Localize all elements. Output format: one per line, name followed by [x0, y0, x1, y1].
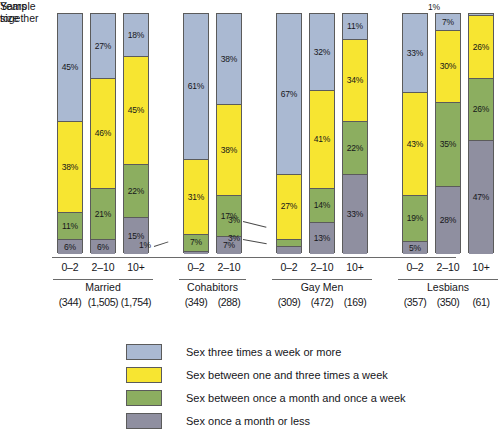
bar-segment: 19% [403, 196, 427, 242]
callout-gaymen-green-3pct: 3% [228, 215, 240, 225]
segment-value-label: 15% [128, 232, 144, 241]
bar-segment: 43% [403, 93, 427, 196]
group-name-lesbians: Lesbians [398, 279, 498, 293]
chart-baseline [52, 257, 456, 258]
segment-value-label: 27% [95, 42, 111, 51]
years-tick: 2–10 [212, 261, 246, 273]
callout-lesbians-1pct: 1% [428, 2, 440, 12]
segment-value-label: 47% [473, 193, 489, 202]
bar-segment: 14% [310, 189, 334, 223]
years-tick: 0–2 [398, 261, 432, 273]
bar-segment: 18% [124, 14, 148, 57]
legend-swatch [126, 344, 162, 360]
bar-segment: 34% [343, 40, 367, 122]
legend-swatch [126, 367, 162, 383]
callout-gaymen-grey-3pct: 3% [228, 233, 240, 243]
segment-value-label: 26% [473, 105, 489, 114]
bar-cohabitors-02: 61%31%7% [183, 13, 209, 253]
bar-segment: 27% [277, 175, 301, 240]
years-tick: 2–10 [431, 261, 465, 273]
legend-three-times-week: Sex three times a week or more [126, 340, 456, 363]
segment-value-label: 27% [281, 202, 297, 211]
bar-lesbians-10+: 26%26%47% [468, 13, 494, 253]
segment-value-label: 18% [128, 31, 144, 40]
bar-gay-men-02: 67%27% [276, 13, 302, 253]
bar-segment: 26% [469, 79, 493, 141]
bar-segment [277, 247, 301, 254]
years-tick: 10+ [464, 261, 498, 273]
segment-value-label: 14% [314, 201, 330, 210]
years-tick: 2–10 [86, 261, 120, 273]
legend-label: Sex once a month or less [186, 415, 310, 427]
group-name-married: Married [53, 279, 153, 293]
segment-value-label: 41% [314, 135, 330, 144]
bar-segment: 7% [184, 235, 208, 252]
bar-segment: 30% [436, 31, 460, 103]
bar-segment: 35% [436, 103, 460, 187]
segment-value-label: 6% [64, 243, 76, 252]
bar-married-210: 27%46%21%6% [90, 13, 116, 253]
bar-segment: 11% [343, 14, 367, 40]
bar-segment: 27% [91, 14, 115, 79]
group-name-gay-men: Gay Men [272, 279, 372, 293]
segment-value-label: 31% [188, 193, 204, 202]
segment-value-label: 33% [407, 49, 423, 58]
legend-one-to-three-week: Sex between one and three times a week [126, 363, 456, 386]
bar-segment: 45% [58, 14, 82, 122]
bar-segment [184, 252, 208, 254]
bar-segment: 6% [58, 240, 82, 254]
bar-segment: 7% [436, 14, 460, 31]
segment-value-label: 19% [407, 214, 423, 223]
bar-segment: 38% [58, 122, 82, 213]
bar-lesbians-210: 7%30%35%28% [435, 13, 461, 253]
sample-label-line2: size [0, 12, 36, 24]
segment-value-label: 21% [95, 210, 111, 219]
bar-gay-men-210: 32%41%14%13% [309, 13, 335, 253]
bar-segment: 38% [217, 105, 241, 196]
chart-legend: Sex three times a week or moreSex betwee… [126, 340, 456, 432]
bar-segment: 33% [403, 14, 427, 93]
years-tick: 0–2 [53, 261, 87, 273]
callout-cohabitors-1pct: 1% [139, 240, 151, 250]
bar-segment: 45% [124, 57, 148, 165]
segment-value-label: 7% [442, 18, 454, 27]
segment-value-label: 67% [281, 90, 297, 99]
segment-value-label: 7% [190, 238, 202, 247]
sample-size-value: (1,754) [116, 296, 156, 308]
years-tick: 0–2 [272, 261, 306, 273]
segment-value-label: 38% [62, 163, 78, 172]
bar-segment [277, 240, 301, 247]
bar-lesbians-02: 33%43%19%5% [402, 13, 428, 253]
segment-value-label: 35% [440, 140, 456, 149]
sample-size-label: Sample size [0, 0, 36, 24]
group-name-cohabitors: Cohabitors [179, 279, 246, 293]
segment-value-label: 26% [473, 43, 489, 52]
bar-segment: 28% [436, 187, 460, 254]
bar-segment: 61% [184, 14, 208, 160]
segment-value-label: 5% [409, 244, 421, 253]
segment-value-label: 38% [221, 55, 237, 64]
bar-segment: 46% [91, 79, 115, 189]
legend-swatch [126, 390, 162, 406]
sample-size-value: (288) [209, 296, 249, 308]
bar-segment: 6% [91, 240, 115, 254]
legend-swatch [126, 413, 162, 429]
bar-gay-men-10+: 11%34%22%33% [342, 13, 368, 253]
bar-married-10+: 18%45%22%15% [123, 13, 149, 253]
segment-value-label: 61% [188, 82, 204, 91]
segment-value-label: 32% [314, 48, 330, 57]
segment-value-label: 46% [95, 129, 111, 138]
segment-value-label: 22% [347, 144, 363, 153]
segment-value-label: 33% [347, 210, 363, 219]
segment-value-label: 13% [314, 234, 330, 243]
legend-label: Sex between one and three times a week [186, 369, 388, 381]
bar-segment: 38% [217, 14, 241, 105]
bar-segment: 22% [124, 165, 148, 218]
segment-value-label: 11% [62, 222, 78, 231]
segment-value-label: 11% [347, 22, 363, 31]
bar-segment: 22% [343, 122, 367, 175]
segment-value-label: 28% [440, 216, 456, 225]
legend-once-month-or-less: Sex once a month or less [126, 409, 456, 432]
segment-value-label: 22% [128, 187, 144, 196]
years-tick: 2–10 [305, 261, 339, 273]
